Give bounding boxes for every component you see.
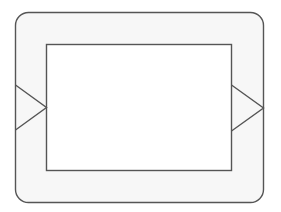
inner-rectangle — [47, 45, 232, 171]
diagram-canvas — [0, 0, 281, 212]
